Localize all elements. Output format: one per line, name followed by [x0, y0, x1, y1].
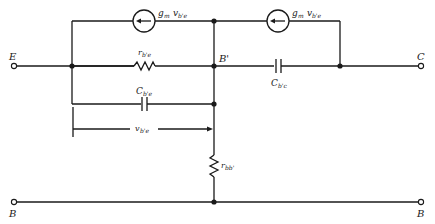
label-c: C: [417, 51, 425, 62]
junction-emitter: [69, 63, 74, 68]
svg-text:C: C: [136, 86, 143, 96]
svg-text:m: m: [298, 12, 304, 19]
label-cbc: C b'c: [271, 78, 287, 89]
voltage-arrow: [207, 127, 213, 132]
current-source-right: [267, 10, 289, 32]
svg-text:b'c: b'c: [278, 82, 287, 89]
svg-text:b'e: b'e: [143, 90, 152, 97]
junction-bprime: [211, 63, 216, 68]
label-vbe: v b'e: [135, 124, 149, 134]
circuit-diagram: E C B B B' g m v b'e g m v b'e r b'e C b…: [0, 0, 435, 224]
terminal-e: [11, 63, 16, 68]
junction-top: [211, 18, 216, 23]
svg-text:b'e: b'e: [178, 12, 187, 19]
label-b-left: B: [8, 208, 16, 219]
junction-cbe: [211, 101, 216, 106]
label-e: E: [8, 51, 17, 62]
terminal-b-right: [418, 199, 423, 204]
current-source-left: [133, 10, 155, 32]
resistor-rbb: [210, 155, 218, 177]
svg-text:b'e: b'e: [312, 12, 321, 19]
junction-base: [211, 199, 216, 204]
label-source-left: g m v b'e: [158, 8, 187, 19]
resistor-rbe: [134, 62, 155, 70]
label-bprime: B': [218, 53, 229, 64]
svg-text:bb': bb': [225, 164, 235, 171]
svg-text:m: m: [164, 12, 170, 19]
label-source-right: g m v b'e: [292, 8, 321, 19]
svg-text:b'e: b'e: [140, 127, 149, 134]
label-cbe: C b'e: [136, 86, 152, 97]
svg-text:b'e: b'e: [142, 51, 151, 58]
label-rbb: r bb': [221, 161, 235, 171]
label-rbe: r b'e: [138, 48, 151, 58]
label-b-right: B: [416, 208, 424, 219]
terminal-c: [418, 63, 423, 68]
junction-collector: [337, 63, 342, 68]
terminal-b-left: [11, 199, 16, 204]
svg-text:C: C: [271, 78, 278, 88]
